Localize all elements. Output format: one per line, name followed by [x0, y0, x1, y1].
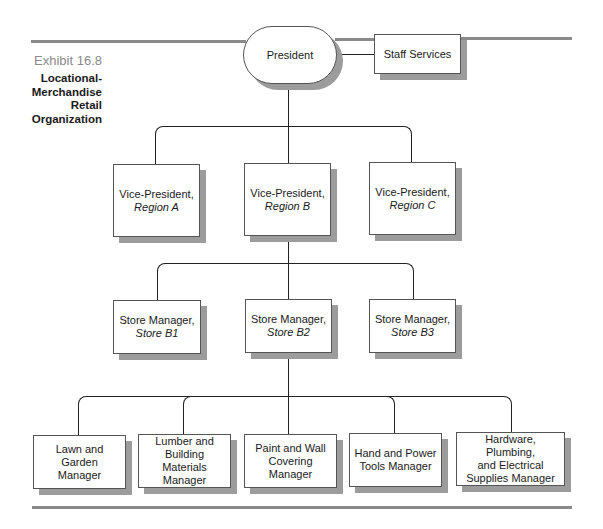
hardware-plumbing-electrical-manager-node: Hardware, Plumbing, and Electrical Suppl… — [456, 432, 565, 486]
vp-region-c-node: Vice-President, Region C — [369, 162, 456, 235]
exhibit-caption: Exhibit 16.8 Locational- Merchandise Ret… — [30, 53, 102, 126]
vp-region-a-node: Vice-President, Region A — [113, 164, 200, 237]
top-rule-middle — [335, 38, 377, 41]
bottom-rule — [32, 506, 572, 509]
exhibit-title: Locational- Merchandise Retail Organizat… — [30, 72, 102, 126]
staff-services-label: Staff Services — [384, 48, 452, 61]
store-manager-b1-node: Store Manager, Store B1 — [113, 300, 201, 354]
store-manager-b3-node: Store Manager, Store B3 — [369, 299, 456, 353]
lumber-building-manager-node: Lumber and Building Materials Manager — [138, 434, 231, 488]
president-node: President — [243, 26, 337, 84]
store-manager-b2-node: Store Manager, Store B2 — [245, 299, 332, 353]
staff-services-node: Staff Services — [374, 34, 461, 74]
paint-wall-covering-manager-node: Paint and Wall Covering Manager — [244, 434, 337, 488]
top-rule-right — [460, 37, 572, 40]
vp-branch-connector — [155, 126, 412, 164]
hand-power-tools-manager-node: Hand and Power Tools Manager — [349, 433, 442, 487]
lawn-garden-manager-node: Lawn and Garden Manager — [33, 435, 126, 489]
dept-branch-connector-inner — [183, 396, 395, 435]
store-branch-connector — [157, 263, 414, 301]
top-rule-left — [31, 40, 246, 43]
vp-region-b-node: Vice-President, Region B — [244, 163, 331, 236]
president-label: President — [267, 49, 313, 62]
exhibit-number: Exhibit 16.8 — [30, 53, 102, 68]
president-staff-connector — [335, 54, 375, 55]
